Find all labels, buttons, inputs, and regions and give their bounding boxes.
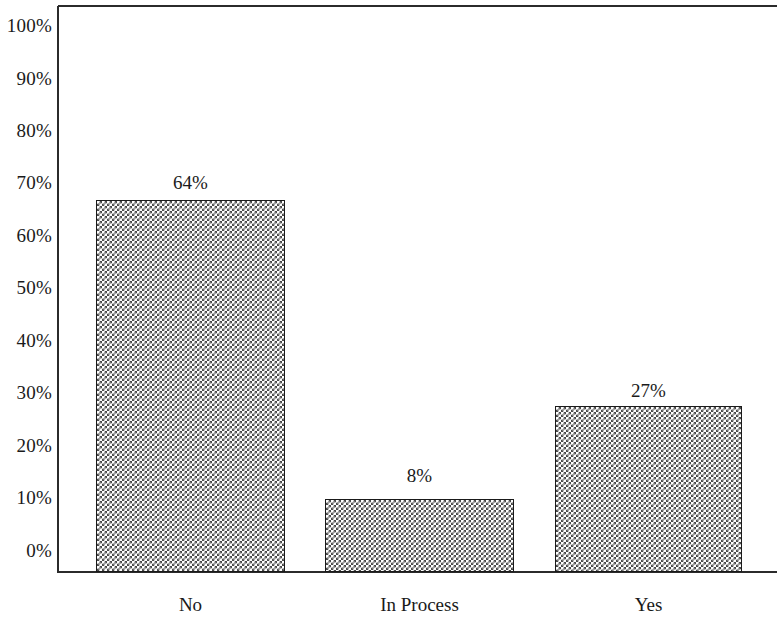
plot-top-border xyxy=(58,5,777,7)
y-axis-tick-label-80: 80% xyxy=(0,121,52,140)
y-axis-tick-label-100: 100% xyxy=(0,16,52,35)
y-axis-tick-label-90: 90% xyxy=(0,69,52,88)
category-label-yes: Yes xyxy=(555,595,742,615)
bar-in-process xyxy=(325,499,514,572)
bar-value-label-no: 64% xyxy=(96,173,285,192)
y-axis-tick-label-20: 20% xyxy=(0,436,52,455)
y-axis-tick-label-30: 30% xyxy=(0,383,52,402)
y-axis-tick-label-50: 50% xyxy=(0,278,52,297)
y-axis-tick-label-10: 10% xyxy=(0,488,52,507)
y-axis-tick-label-0: 0% xyxy=(0,541,52,560)
bar-no xyxy=(96,200,285,572)
category-label-no: No xyxy=(96,595,285,615)
y-axis-tick-label-60: 60% xyxy=(0,226,52,245)
y-axis-line xyxy=(57,6,59,573)
y-axis-tick-label-40: 40% xyxy=(0,331,52,350)
category-label-in-process: In Process xyxy=(325,595,514,615)
bar-chart: 100% 90% 80% 70% 60% 50% 40% 30% 20% 10%… xyxy=(0,0,777,620)
bar-yes xyxy=(555,406,742,572)
y-axis-tick-label-70: 70% xyxy=(0,173,52,192)
bar-value-label-yes: 27% xyxy=(555,381,742,400)
bar-value-label-in-process: 8% xyxy=(325,466,514,485)
